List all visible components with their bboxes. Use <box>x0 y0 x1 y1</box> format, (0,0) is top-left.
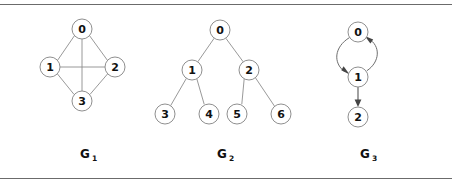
edge-2-6 <box>256 78 275 106</box>
node-g3-2[interactable]: 2 <box>348 107 368 127</box>
node-label: 4 <box>205 108 213 121</box>
node-g2-3[interactable]: 3 <box>155 104 175 124</box>
node-g3-0[interactable]: 0 <box>348 22 368 42</box>
node-label: 2 <box>354 111 362 124</box>
g3-caption: G 3 <box>360 147 377 163</box>
edge-1-3 <box>171 78 187 105</box>
g3-nodes: 0 1 2 <box>348 22 368 127</box>
graph-figure: 0 1 2 3 G 1 <box>0 0 452 184</box>
edge-0-2 <box>226 38 243 62</box>
graph-g3: 0 1 2 G 3 <box>337 22 378 163</box>
node-label: 0 <box>354 26 362 39</box>
node-label: 1 <box>46 61 54 74</box>
node-label: 0 <box>216 24 224 37</box>
node-g2-0[interactable]: 0 <box>210 20 230 40</box>
graph-g2: 0 1 2 3 4 <box>155 20 291 163</box>
node-g1-3[interactable]: 3 <box>72 91 92 111</box>
graph-g1: 0 1 2 3 G 1 <box>40 19 125 163</box>
node-g1-0[interactable]: 0 <box>72 19 92 39</box>
node-g3-1[interactable]: 1 <box>348 67 368 87</box>
g1-caption: G 1 <box>80 147 97 163</box>
node-g1-1[interactable]: 1 <box>40 57 60 77</box>
edge-1-3 <box>58 74 75 94</box>
graph-caption-subscript: 2 <box>229 154 234 163</box>
edge-1-4 <box>197 79 204 105</box>
node-label: 0 <box>78 23 86 36</box>
edge-0-1 <box>198 38 214 62</box>
arrowhead-1-2 <box>355 100 362 108</box>
g2-caption: G 2 <box>217 147 234 163</box>
graph-caption-subscript: 3 <box>372 154 377 163</box>
edge-2-3 <box>90 74 108 94</box>
edge-1-0-arc <box>367 39 378 71</box>
node-label: 5 <box>233 108 241 121</box>
node-label: 1 <box>188 64 196 77</box>
g1-edges <box>58 36 108 95</box>
g2-nodes: 0 1 2 3 4 <box>155 20 291 124</box>
node-g2-4[interactable]: 4 <box>199 104 219 124</box>
node-g2-1[interactable]: 1 <box>182 60 202 80</box>
graph-canvas: 0 1 2 3 G 1 <box>0 0 452 184</box>
node-label: 3 <box>78 95 86 108</box>
graph-caption-base: G <box>217 147 227 161</box>
node-label: 3 <box>161 108 169 121</box>
node-g2-2[interactable]: 2 <box>239 60 259 80</box>
graph-caption-base: G <box>360 147 370 161</box>
g1-nodes: 0 1 2 3 <box>40 19 125 111</box>
edge-0-1 <box>58 36 75 61</box>
edge-0-2 <box>90 36 108 61</box>
edge-2-5 <box>242 79 244 105</box>
node-g2-5[interactable]: 5 <box>227 104 247 124</box>
graph-caption-base: G <box>80 147 90 161</box>
node-label: 6 <box>277 108 285 121</box>
node-g2-6[interactable]: 6 <box>271 104 291 124</box>
node-label: 2 <box>245 64 253 77</box>
node-label: 1 <box>354 71 362 84</box>
node-label: 2 <box>111 61 119 74</box>
graph-caption-subscript: 1 <box>92 154 97 163</box>
edge-0-1-arc <box>337 38 350 72</box>
node-g1-2[interactable]: 2 <box>105 57 125 77</box>
